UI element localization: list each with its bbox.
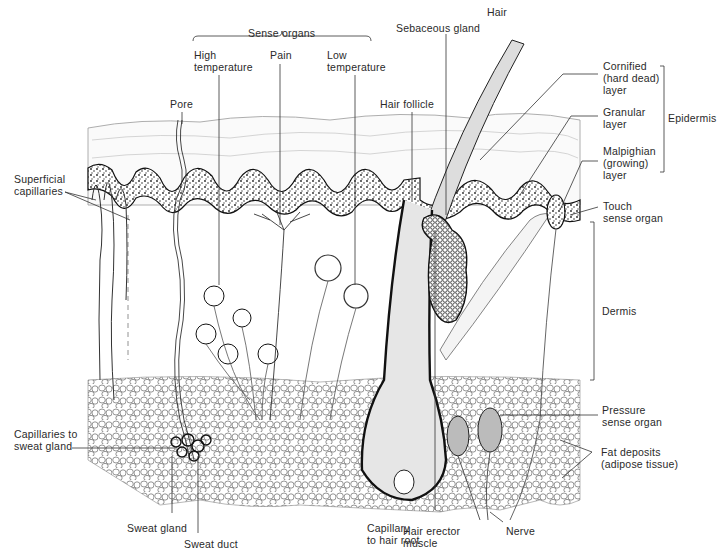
label-pain: Pain (270, 49, 292, 61)
label-pore: Pore (170, 98, 193, 110)
label-sweat-duct: Sweat duct (184, 538, 238, 550)
label-sense-organs: Sense organs (248, 27, 315, 39)
high-temperature-receptors (196, 286, 278, 364)
label-high-temperature: High temperature (194, 49, 253, 73)
label-malpighian-layer: Malpighian (growing) layer (603, 145, 656, 181)
label-dermis: Dermis (602, 305, 636, 317)
superficial-capillaries-shape (92, 183, 127, 401)
label-granular-layer: Granular layer (603, 106, 645, 130)
label-hair-follicle: Hair follicle (380, 98, 434, 110)
label-hair: Hair (487, 6, 507, 18)
label-hair-erector-muscle: Hair erector muscle (403, 525, 460, 549)
label-nerve: Nerve (506, 525, 535, 537)
label-capillaries-to-sweat-gland: Capillaries to sweat gland (14, 428, 78, 452)
label-sebaceous-gland: Sebaceous gland (396, 22, 480, 34)
label-cornified-layer: Cornified (hard dead) layer (603, 60, 659, 96)
label-touch-sense-organ: Touch sense organ (603, 200, 663, 224)
label-superficial-capillaries: Superficial capillaries (14, 173, 65, 197)
touch-sense-organ-shape (547, 195, 565, 229)
label-epidermis: Epidermis (668, 112, 716, 124)
label-pressure-sense-organ: Pressure sense organ (602, 404, 662, 428)
pressure-sense-organ-shape (447, 416, 469, 456)
label-low-temperature: Low temperature (327, 49, 386, 73)
label-sweat-gland: Sweat gland (127, 522, 187, 534)
label-fat-deposits: Fat deposits (adipose tissue) (601, 446, 678, 470)
